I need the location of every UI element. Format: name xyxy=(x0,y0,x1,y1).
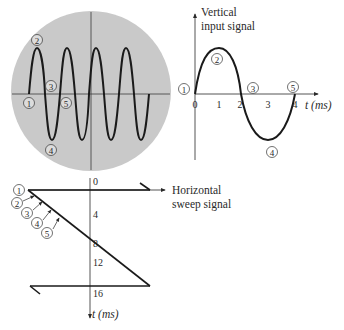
vertical-input-graph: Vertical input signal 0 1 2 3 4 t (ms) 1… xyxy=(179,6,332,160)
vertical-marker-5: 5 xyxy=(288,82,299,93)
svg-text:3: 3 xyxy=(251,84,256,94)
svg-text:0: 0 xyxy=(193,99,198,110)
svg-text:2: 2 xyxy=(15,199,20,209)
vertical-input-label-line2: input signal xyxy=(201,20,255,33)
horizontal-sweep-graph: 0 4 8 12 16 t (ms) Horizontal sweep sign… xyxy=(12,176,232,321)
scope-marker-2: 2 xyxy=(32,35,43,46)
horizontal-sweep-label-line2: sweep signal xyxy=(172,198,231,211)
vertical-marker-1: 1 xyxy=(179,84,190,95)
scope-marker-4: 4 xyxy=(46,145,57,156)
svg-text:4: 4 xyxy=(49,146,54,156)
sweep-marker-5: 5 xyxy=(42,218,60,239)
scope-screen: 1 2 3 4 5 xyxy=(11,11,171,171)
svg-text:4: 4 xyxy=(93,209,98,220)
vertical-marker-4: 4 xyxy=(267,147,278,158)
vertical-input-label-line1: Vertical xyxy=(201,6,237,18)
vertical-marker-2: 2 xyxy=(212,54,223,65)
svg-text:0: 0 xyxy=(93,176,98,187)
svg-text:2: 2 xyxy=(35,36,40,46)
vertical-x-axis-label: t (ms) xyxy=(305,99,332,112)
svg-text:4: 4 xyxy=(35,219,40,229)
sweep-marker-1: 1 xyxy=(14,185,25,196)
svg-text:3: 3 xyxy=(25,209,30,219)
svg-text:5: 5 xyxy=(291,83,296,93)
scope-marker-5: 5 xyxy=(61,98,72,109)
svg-text:3: 3 xyxy=(49,82,54,92)
svg-text:1: 1 xyxy=(217,99,222,110)
sweep-t-axis-label: t (ms) xyxy=(92,308,119,321)
sweep-marker-3: 3 xyxy=(22,202,43,219)
svg-text:4: 4 xyxy=(270,148,275,158)
svg-text:5: 5 xyxy=(64,99,69,109)
svg-text:2: 2 xyxy=(215,55,220,65)
scope-marker-1: 1 xyxy=(24,98,35,109)
svg-text:4: 4 xyxy=(293,99,298,110)
sweep-marker-4: 4 xyxy=(32,210,52,229)
svg-text:12: 12 xyxy=(93,257,103,268)
horizontal-sweep-label-line1: Horizontal xyxy=(172,184,221,196)
vertical-marker-3: 3 xyxy=(248,83,259,94)
scope-marker-3: 3 xyxy=(46,81,57,92)
svg-text:1: 1 xyxy=(182,85,187,95)
svg-text:2: 2 xyxy=(238,99,243,110)
sweep-marker-2: 2 xyxy=(12,196,35,209)
oscilloscope-diagram: 1 2 3 4 5 Vertical input signal 0 1 2 3 … xyxy=(0,0,344,330)
svg-text:5: 5 xyxy=(45,229,50,239)
svg-text:1: 1 xyxy=(27,99,32,109)
svg-text:16: 16 xyxy=(93,288,103,299)
svg-text:3: 3 xyxy=(266,99,271,110)
svg-text:1: 1 xyxy=(17,186,22,196)
